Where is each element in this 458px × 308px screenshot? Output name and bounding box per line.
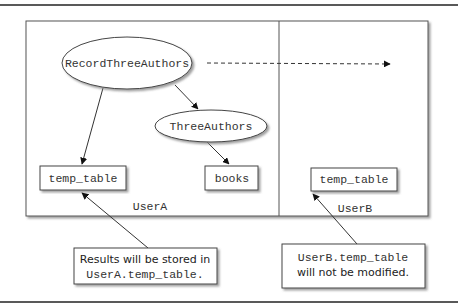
table-label: books [215, 172, 250, 185]
procedure-label: RecordThreeAuthors [65, 57, 189, 70]
diagram-canvas: RecordThreeAuthors ThreeAuthors temp_tab… [0, 0, 458, 308]
schema-label-userB: UserB [338, 202, 373, 215]
callout-line-2: will not be modified. [297, 266, 409, 279]
callout-line-1: UserB.temp_table [298, 251, 409, 264]
callout-line-1: Results will be stored in [80, 253, 210, 266]
table-temp-table-userA: temp_table [40, 166, 126, 190]
schema-label-userA: UserA [133, 200, 168, 213]
table-temp-table-userB: temp_table [311, 168, 397, 191]
table-label: temp_table [319, 173, 388, 186]
procedure-three-authors: ThreeAuthors [155, 110, 267, 142]
table-books: books [205, 166, 258, 190]
callout-line-2: UserA.temp_table. [86, 268, 203, 281]
callout-userB: UserB.temp_table will not be modified. [282, 244, 425, 288]
callout-userA: Results will be stored in UserA.temp_tab… [74, 248, 217, 284]
procedure-label: ThreeAuthors [170, 120, 253, 133]
procedure-record-three-authors: RecordThreeAuthors [62, 37, 192, 89]
table-label: temp_table [48, 172, 117, 185]
